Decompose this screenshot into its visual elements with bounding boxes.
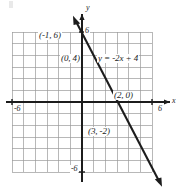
point-label-3-neg2: (3, -2)	[87, 127, 111, 136]
point-label-neg1-6: (-1, 6)	[38, 31, 62, 40]
coordinate-plane-figure	[0, 0, 184, 194]
x-axis-tick-label-positive-six: 6	[157, 105, 163, 113]
equation-label: y = -2x + 4	[97, 54, 139, 63]
x-axis-tick-label-negative-six: -6	[13, 105, 21, 113]
x-axis-label: x	[172, 97, 175, 105]
point-label-2-0: (2, 0)	[113, 91, 134, 100]
line-arrow-upper	[73, 16, 80, 25]
x-axis-arrow	[164, 99, 170, 104]
y-axis-tick-label-negative-six: -6	[70, 165, 78, 173]
y-axis-label: y	[86, 4, 89, 12]
y-axis-tick-label-positive-six: 6	[84, 27, 90, 35]
point-label-0-4: (0, 4)	[60, 54, 81, 63]
y-axis-arrow	[79, 14, 84, 20]
graph-canvas	[0, 0, 184, 194]
line-arrow-lower	[155, 178, 162, 187]
x-axis	[6, 99, 170, 105]
scan-artifact	[9, 1, 13, 8]
